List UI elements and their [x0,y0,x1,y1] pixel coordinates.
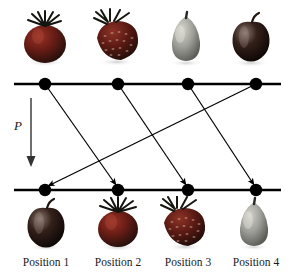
permutation-diagram-figure: P [0,0,295,278]
position-label-2: Position 2 [82,256,154,268]
permutation-graph [0,0,295,278]
permutation-arrow-head [27,156,36,167]
edge-top4-to-bottom1 [48,84,256,186]
position-label-4: Position 4 [220,256,292,268]
position-label-3: Position 3 [152,256,224,268]
edge-top3-to-bottom4 [188,84,254,185]
top-node-4[interactable] [250,78,262,90]
bottom-node-2[interactable] [112,184,124,196]
bottom-node-1[interactable] [39,184,51,196]
bottom-node-4[interactable] [250,184,262,196]
top-node-2[interactable] [112,78,124,90]
position-label-1: Position 1 [10,256,82,268]
top-node-3[interactable] [182,78,194,90]
top-node-1[interactable] [39,78,51,90]
bottom-node-3[interactable] [182,184,194,196]
permutation-label: P [14,118,22,134]
